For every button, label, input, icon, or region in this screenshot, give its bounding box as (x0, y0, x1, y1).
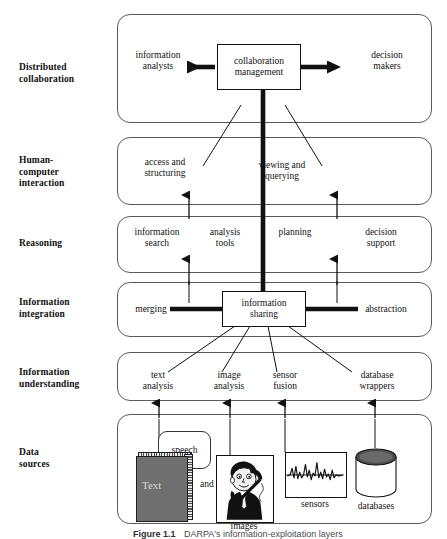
collaboration-management-label: collaboration management (234, 56, 284, 79)
sensors-label: sensors (285, 499, 345, 509)
abstraction-node: abstraction (355, 304, 417, 315)
information-analysts-node: information analysts (122, 50, 194, 72)
figure-caption: Figure 1.1 DARPA's information-exploitat… (133, 529, 343, 539)
figure-caption-number: Figure 1.1 (133, 529, 176, 539)
figure-caption-text: DARPA's information-exploitation layers (184, 529, 343, 539)
merging-node: merging (126, 304, 176, 315)
sharing-fanout (168, 326, 352, 372)
database-wrappers-node: database wrappers (344, 370, 410, 392)
decision-makers-node: decision makers (351, 50, 423, 72)
text-analysis-node: text analysis (127, 370, 189, 392)
and-label: and (200, 479, 214, 489)
person-photo-icon (216, 455, 274, 523)
decision-support-node: decision support (350, 227, 412, 249)
databases-label: databases (346, 501, 406, 511)
image-analysis-node: image analysis (198, 370, 260, 392)
sensor-fusion-node: sensor fusion (256, 370, 314, 392)
analysis-tools-node: analysis tools (197, 227, 253, 249)
viewing-and-querying-node: viewing and querying (243, 160, 321, 182)
waveform-icon (285, 452, 347, 498)
database-cylinder-icon (350, 448, 402, 498)
information-sharing-label: information sharing (242, 298, 287, 321)
information-search-node: information search (124, 227, 190, 249)
collaboration-management-box[interactable]: collaboration management (217, 44, 301, 90)
access-and-structuring-node: access and structuring (126, 157, 204, 179)
figure-canvas: Distributed collaboration Human- compute… (0, 0, 447, 539)
planning-node: planning (268, 227, 322, 238)
information-sharing-box[interactable]: information sharing (222, 291, 306, 327)
sources-to-understanding-arrows (159, 403, 375, 418)
book-icon: Text (132, 452, 200, 524)
book-text-label: Text (142, 479, 161, 491)
